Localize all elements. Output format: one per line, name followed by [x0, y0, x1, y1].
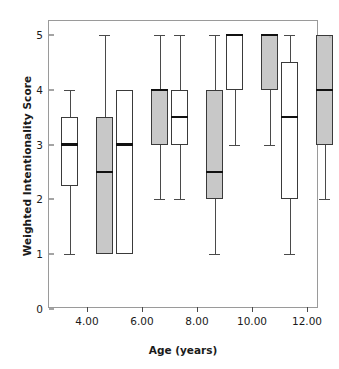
x-tick-label: 8.00 [185, 315, 208, 327]
whisker-lower [325, 145, 326, 200]
whisker-cap-lower [284, 254, 295, 255]
whisker-cap-lower [209, 254, 220, 255]
y-tick-mark [49, 89, 54, 90]
whisker-upper [105, 35, 106, 117]
whisker-lower [180, 145, 181, 200]
median-line [116, 143, 133, 146]
y-tick-label: 1 [36, 248, 49, 260]
box-iqr-gray [261, 35, 278, 90]
median-line [226, 34, 243, 37]
whisker-cap-upper [284, 35, 295, 36]
y-tick-mark [49, 199, 54, 200]
median-line [151, 89, 168, 92]
whisker-upper [70, 90, 71, 117]
x-tick-mark [142, 307, 143, 312]
y-tick-mark [49, 144, 54, 145]
y-tick-mark [49, 254, 54, 255]
x-tick-mark [252, 307, 253, 312]
y-tick-mark [49, 309, 54, 310]
box-iqr-white [281, 62, 298, 199]
boxplot-figure: Weighted Intentionality Score 012345 4.0… [0, 0, 339, 369]
whisker-cap-lower [319, 199, 330, 200]
whisker-cap-lower [154, 199, 165, 200]
whisker-cap-lower [174, 199, 185, 200]
whisker-upper [180, 35, 181, 90]
y-tick-label: 5 [36, 29, 49, 41]
whisker-cap-upper [154, 35, 165, 36]
whisker-lower [215, 199, 216, 254]
whisker-cap-upper [174, 35, 185, 36]
box-iqr-white [226, 35, 243, 90]
whisker-cap-lower [264, 145, 275, 146]
median-line [61, 143, 78, 146]
plot-area: 012345 4.006.008.0010.0012.00 [48, 20, 318, 308]
median-line [281, 116, 298, 119]
whisker-lower [270, 90, 271, 145]
y-tick-label: 4 [36, 84, 49, 96]
box-iqr-gray [206, 90, 223, 200]
x-axis-title: Age (years) [48, 344, 318, 356]
whisker-cap-upper [99, 35, 110, 36]
whisker-lower [160, 145, 161, 200]
whisker-cap-upper [209, 35, 220, 36]
box-iqr-white [116, 90, 133, 254]
whisker-lower [70, 186, 71, 255]
whisker-upper [215, 35, 216, 90]
y-axis-title: Weighted Intentionality Score [21, 51, 33, 281]
whisker-cap-upper [64, 90, 75, 91]
median-line [206, 171, 223, 174]
x-tick-mark [197, 307, 198, 312]
whisker-lower [235, 90, 236, 145]
x-tick-mark [307, 307, 308, 312]
box-iqr-gray [96, 117, 113, 254]
x-tick-mark [87, 307, 88, 312]
y-tick-mark [49, 35, 54, 36]
median-line [261, 34, 278, 37]
whisker-upper [160, 35, 161, 90]
median-line [316, 89, 333, 92]
x-tick-label: 10.00 [237, 315, 267, 327]
stray-speck [329, 36, 331, 38]
y-tick-label: 3 [36, 139, 49, 151]
x-tick-label: 6.00 [130, 315, 153, 327]
box-iqr-white [61, 117, 78, 186]
whisker-upper [290, 35, 291, 62]
median-line [171, 116, 188, 119]
y-tick-label: 2 [36, 193, 49, 205]
median-line [96, 171, 113, 174]
x-tick-label: 4.00 [75, 315, 98, 327]
whisker-lower [290, 199, 291, 254]
whisker-cap-lower [229, 145, 240, 146]
box-iqr-gray [151, 90, 168, 145]
whisker-cap-lower [64, 254, 75, 255]
x-tick-label: 12.00 [292, 315, 322, 327]
y-tick-label: 0 [36, 303, 49, 315]
